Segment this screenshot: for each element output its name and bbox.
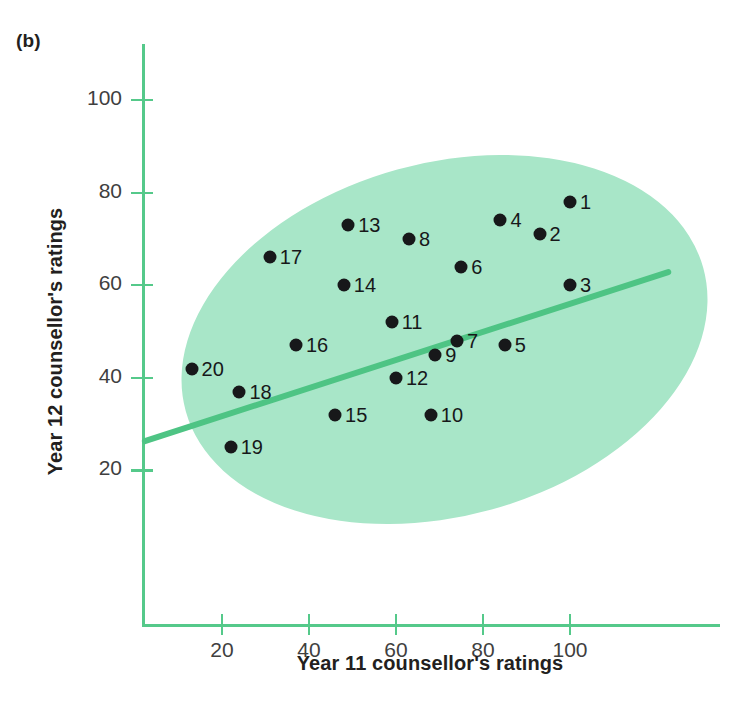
data-point-12[interactable] (390, 371, 403, 384)
data-point-label-8: 8 (419, 227, 430, 250)
y-tick-label-100: 100 (62, 86, 122, 110)
data-envelope-ellipse (139, 98, 740, 582)
data-point-label-18: 18 (249, 380, 271, 403)
y-tick-100 (131, 99, 153, 101)
data-point-label-13: 13 (358, 214, 380, 237)
data-point-13[interactable] (342, 219, 355, 232)
data-point-19[interactable] (224, 441, 237, 454)
data-point-6[interactable] (455, 260, 468, 273)
y-tick-label-40: 40 (62, 364, 122, 388)
data-point-18[interactable] (233, 385, 246, 398)
data-point-15[interactable] (329, 408, 342, 421)
y-axis-line (142, 44, 145, 626)
y-tick-label-20: 20 (62, 456, 122, 480)
data-point-4[interactable] (494, 214, 507, 227)
x-tick-80 (482, 614, 484, 635)
data-point-label-19: 19 (241, 436, 263, 459)
y-tick-80 (131, 192, 153, 194)
y-tick-label-60: 60 (62, 271, 122, 295)
data-point-label-3: 3 (580, 274, 591, 297)
x-tick-40 (308, 614, 310, 635)
data-point-label-6: 6 (471, 255, 482, 278)
data-point-label-20: 20 (202, 357, 224, 380)
data-point-label-2: 2 (550, 223, 561, 246)
data-point-label-10: 10 (441, 403, 463, 426)
data-point-label-17: 17 (280, 246, 302, 269)
data-point-2[interactable] (533, 228, 546, 241)
data-point-8[interactable] (403, 232, 416, 245)
x-axis-line (142, 624, 720, 627)
data-point-16[interactable] (289, 339, 302, 352)
x-tick-60 (395, 614, 397, 635)
x-axis-title: Year 11 counsellor's ratings (140, 652, 720, 675)
data-point-label-12: 12 (406, 366, 428, 389)
data-point-1[interactable] (564, 195, 577, 208)
data-point-11[interactable] (385, 316, 398, 329)
data-point-17[interactable] (263, 251, 276, 264)
data-point-9[interactable] (429, 348, 442, 361)
y-tick-60 (131, 284, 153, 286)
data-point-label-11: 11 (402, 311, 423, 334)
x-tick-20 (221, 614, 223, 635)
panel-label: (b) (16, 30, 41, 52)
data-point-label-9: 9 (445, 343, 456, 366)
chart-canvas: (b) 20406080100 20406080100 123456789101… (0, 0, 740, 702)
data-point-label-4: 4 (510, 209, 521, 232)
data-point-label-1: 1 (580, 190, 591, 213)
data-point-20[interactable] (185, 362, 198, 375)
data-point-10[interactable] (424, 408, 437, 421)
y-tick-label-80: 80 (62, 179, 122, 203)
y-tick-40 (131, 377, 153, 379)
data-point-label-5: 5 (515, 334, 526, 357)
y-axis-title: Year 12 counsellor's ratings (44, 132, 67, 552)
x-tick-100 (569, 614, 571, 635)
data-point-3[interactable] (564, 279, 577, 292)
data-point-label-14: 14 (354, 274, 376, 297)
data-point-14[interactable] (337, 279, 350, 292)
data-point-label-15: 15 (345, 403, 367, 426)
data-point-5[interactable] (498, 339, 511, 352)
y-tick-20 (131, 469, 153, 471)
data-point-label-16: 16 (306, 334, 328, 357)
data-point-label-7: 7 (467, 329, 478, 352)
